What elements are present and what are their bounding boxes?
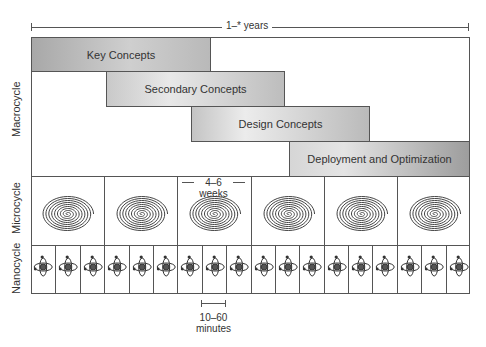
phase-label: Design Concepts [239, 118, 323, 130]
nanocycle-duration-label: 10–60 minutes [191, 312, 236, 334]
duration-value: 4–6 [194, 177, 233, 188]
phase-secondary-concepts: Secondary Concepts [106, 71, 285, 107]
atom-icon [178, 245, 202, 293]
row-label-nanocycle: Nanocycle [10, 243, 22, 294]
atom-icon [276, 245, 300, 293]
microcycle-cell [397, 176, 470, 245]
phase-label: Secondary Concepts [144, 83, 246, 95]
atom-icon [398, 245, 422, 293]
phase-key-concepts: Key Concepts [31, 37, 211, 72]
spiral-icon [105, 176, 178, 245]
atom-icon [325, 245, 349, 293]
nanocycle-cell [153, 245, 177, 293]
phase-design-concepts: Design Concepts [191, 106, 370, 142]
nanocycle-cell [299, 245, 323, 293]
microcycle-cell [324, 176, 397, 245]
atom-icon [300, 245, 324, 293]
row-label-microcycle: Microcycle [10, 182, 22, 234]
nanocycle-cell [324, 245, 348, 293]
spiral-icon [325, 176, 398, 245]
atom-icon [105, 245, 129, 293]
microcycle-cell [31, 176, 104, 245]
atom-icon [422, 245, 446, 293]
weeks-bracket-left [182, 182, 194, 183]
nanocycle-cell [226, 245, 250, 293]
nanocycle-cell [129, 245, 153, 293]
duration-label: 1–* years [222, 20, 272, 31]
atom-icon [56, 245, 80, 293]
nanocycle-cell [202, 245, 226, 293]
spiral-icon [398, 176, 471, 245]
spiral-icon [31, 176, 104, 245]
atom-icon [81, 245, 105, 293]
nanocycle-cell [372, 245, 396, 293]
nanocycle-cell [348, 245, 372, 293]
atom-icon [349, 245, 373, 293]
nanocycle-cell [397, 245, 421, 293]
nanocycle-cell [446, 245, 470, 293]
nanocycle-cell [421, 245, 445, 293]
microcycle-cell [251, 176, 324, 245]
duration-end-tick [468, 23, 469, 31]
nanocycle-cell [55, 245, 79, 293]
nanocycle-cell [275, 245, 299, 293]
nanocycle-cell [31, 245, 55, 293]
nanocycle-cell [80, 245, 104, 293]
minutes-bracket-end [225, 300, 226, 307]
atom-icon [373, 245, 397, 293]
microcycle-cell [104, 176, 177, 245]
atom-icon [130, 245, 154, 293]
nanocycle-cell [177, 245, 201, 293]
atom-icon [154, 245, 178, 293]
duration-value: 10–60 [191, 312, 236, 323]
microcycle-duration-label: 4–6 weeks [194, 177, 233, 199]
nanocycle-cell [251, 245, 275, 293]
atom-icon [252, 245, 276, 293]
atom-icon [31, 245, 55, 293]
duration-unit: minutes [191, 323, 236, 334]
row-label-macrocycle: Macrocycle [10, 81, 22, 137]
atom-icon [203, 245, 227, 293]
weeks-bracket-right [233, 182, 245, 183]
duration-unit: weeks [194, 188, 233, 199]
spiral-icon [252, 176, 325, 245]
nanocycle-cell [104, 245, 128, 293]
atom-icon [447, 245, 471, 293]
atom-icon [227, 245, 251, 293]
minutes-bracket-line [201, 303, 226, 304]
phase-deployment-optimization: Deployment and Optimization [289, 141, 470, 177]
phase-label: Key Concepts [87, 49, 155, 61]
phase-label: Deployment and Optimization [307, 153, 451, 165]
